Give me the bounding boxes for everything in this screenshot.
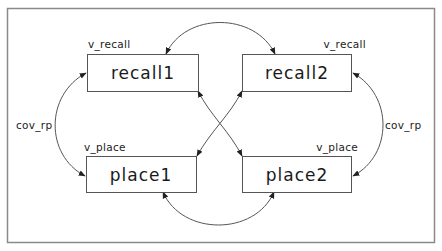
variance-label-place2: v_place (316, 141, 358, 154)
node-label: recall1 (111, 63, 175, 83)
node-label: recall2 (265, 63, 329, 83)
edge-recall1-recall2[interactable] (166, 23, 275, 55)
cov-label-left: cov_rp (16, 119, 52, 132)
variance-label-place1: v_place (84, 141, 126, 154)
node-label: place2 (266, 165, 329, 185)
node-label: place1 (110, 165, 173, 185)
variance-label-recall1: v_recall (88, 38, 130, 51)
node-place1[interactable]: place1 (87, 157, 197, 193)
path-diagram-canvas: recall1 recall2 place1 place2 v_recall v… (0, 0, 442, 251)
edge-recall2-place2[interactable] (353, 73, 383, 176)
variance-label-recall2: v_recall (324, 38, 366, 51)
edge-recall1-place1[interactable] (55, 73, 86, 176)
node-recall2[interactable]: recall2 (243, 55, 352, 92)
cov-label-right: cov_rp (385, 119, 421, 132)
node-place2[interactable]: place2 (243, 157, 352, 193)
node-recall1[interactable]: recall1 (88, 55, 199, 92)
edge-place1-place2[interactable] (163, 192, 274, 225)
